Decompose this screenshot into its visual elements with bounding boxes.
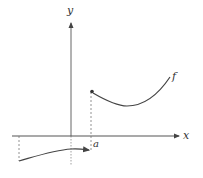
y-axis-label: y — [66, 4, 74, 17]
curve-right-branch — [93, 77, 170, 106]
function-label: f — [171, 70, 178, 83]
function-graph-diagram: y x f a — [0, 0, 203, 178]
curve-left-branch — [19, 149, 89, 161]
closed-point-at-a — [90, 90, 94, 94]
point-a-label: a — [93, 138, 99, 149]
x-axis-label: x — [183, 129, 190, 142]
